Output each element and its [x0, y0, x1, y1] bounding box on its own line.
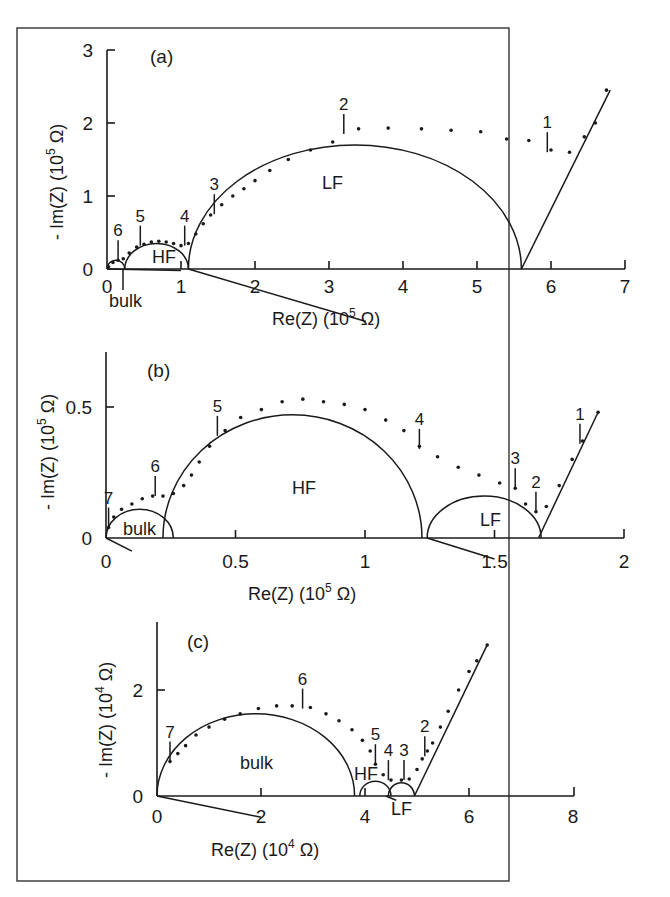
panel-a-data-points: [107, 88, 609, 268]
panel-b: 00.511.5200.5 1234567 (b) bulk HF LF Re(…: [35, 352, 629, 604]
y-tick-label: 1: [82, 186, 93, 207]
data-point: [268, 169, 272, 173]
x-tick-label: 2: [619, 551, 630, 572]
panel-c-xlabel: Re(Z) (104 Ω): [211, 837, 319, 860]
x-tick-label: 2: [250, 276, 261, 297]
frequency-marker-label: 7: [104, 489, 113, 508]
x-tick-label: 1: [360, 551, 371, 572]
data-point: [157, 239, 161, 243]
data-point: [194, 232, 198, 236]
data-point: [439, 725, 443, 729]
panel-c-fitted-arcs: [157, 645, 487, 817]
data-point: [207, 725, 211, 729]
frequency-marker-label: 2: [339, 95, 348, 114]
data-point: [457, 688, 461, 692]
y-tick-label: 0: [81, 528, 92, 549]
data-point: [583, 135, 587, 139]
data-point: [581, 439, 585, 443]
fitted-arc-hf: [163, 415, 422, 538]
x-tick-label: 5: [472, 276, 483, 297]
data-point: [361, 739, 365, 743]
data-point: [253, 179, 257, 183]
data-point: [184, 744, 188, 748]
data-point: [431, 741, 435, 745]
data-point: [331, 140, 335, 144]
frequency-marker-label: 6: [298, 670, 307, 689]
y-tick-label: 0.5: [66, 397, 92, 418]
data-point: [201, 222, 205, 226]
region-label-hf-b: HF: [292, 478, 316, 498]
panel-c-label: (c): [187, 631, 209, 652]
data-point: [161, 494, 165, 498]
panel-c-data-points: [168, 643, 489, 782]
panel-b-xlabel: Re(Z) (105 Ω): [248, 581, 356, 604]
region-label-hf-c: HF: [354, 764, 378, 784]
data-point: [402, 429, 406, 433]
frequency-marker-label: 5: [371, 725, 380, 744]
data-point: [420, 127, 424, 131]
panel-a-label: (a): [150, 46, 173, 67]
x-tick-label: 0: [152, 806, 163, 827]
data-point: [190, 473, 194, 477]
data-point: [260, 408, 264, 412]
data-point: [477, 473, 481, 477]
data-point: [150, 240, 154, 244]
data-point: [290, 704, 294, 708]
data-point: [368, 749, 372, 753]
frequency-marker-label: 5: [136, 207, 145, 226]
data-point: [467, 670, 471, 674]
data-point: [456, 465, 460, 469]
data-point: [142, 242, 146, 246]
data-point: [164, 240, 168, 244]
data-point: [570, 458, 574, 462]
data-point: [231, 194, 235, 198]
data-point: [498, 481, 502, 485]
frequency-marker-label: 6: [150, 457, 159, 476]
data-point: [121, 257, 125, 261]
data-point: [112, 515, 116, 519]
frequency-marker-label: 7: [165, 723, 174, 742]
data-point: [384, 418, 388, 422]
data-point: [172, 242, 176, 246]
data-point: [386, 126, 390, 130]
panel-c-ylabel: - Im(Z) (104 Ω): [93, 662, 116, 778]
leader-line: [157, 796, 261, 817]
data-point: [322, 400, 326, 404]
data-point: [182, 484, 186, 488]
data-point: [140, 497, 144, 501]
panel-a-xlabel: Re(Z) (105 Ω): [272, 306, 380, 329]
frequency-marker-label: 2: [531, 473, 540, 492]
leader-line: [106, 538, 132, 551]
region-label-bulk-a: bulk: [109, 291, 143, 311]
data-point: [179, 244, 183, 248]
x-tick-label: 6: [546, 276, 557, 297]
data-point: [242, 187, 246, 191]
y-tick-label: 2: [132, 680, 143, 701]
data-point: [557, 484, 561, 488]
fitted-arc-lf: [188, 145, 521, 269]
panel-b-frequency-markers: 1234567: [104, 397, 585, 528]
data-point: [596, 410, 600, 414]
x-tick-label: 3: [324, 276, 335, 297]
data-point: [357, 127, 361, 131]
data-point: [485, 643, 489, 647]
panel-b-label: (b): [147, 360, 170, 381]
data-point: [287, 158, 291, 162]
region-label-hf-a: HF: [152, 247, 176, 267]
x-tick-label: 0: [101, 551, 112, 572]
panel-b-ylabel: - Im(Z) (105 Ω): [35, 394, 58, 510]
data-point: [381, 773, 385, 777]
frequency-marker-label: 4: [180, 207, 189, 226]
warburg-spike-line: [521, 90, 610, 269]
x-tick-label: 1: [176, 276, 187, 297]
x-tick-label: 1.5: [481, 551, 507, 572]
y-tick-label: 0: [82, 259, 93, 280]
frequency-marker-label: 2: [420, 717, 429, 736]
data-point: [337, 719, 341, 723]
data-point: [238, 712, 242, 716]
panel-b-fitted-arcs: [106, 412, 598, 559]
data-point: [568, 150, 572, 154]
frequency-marker-label: 3: [510, 449, 519, 468]
x-tick-label: 7: [620, 276, 631, 297]
data-point: [187, 242, 191, 246]
